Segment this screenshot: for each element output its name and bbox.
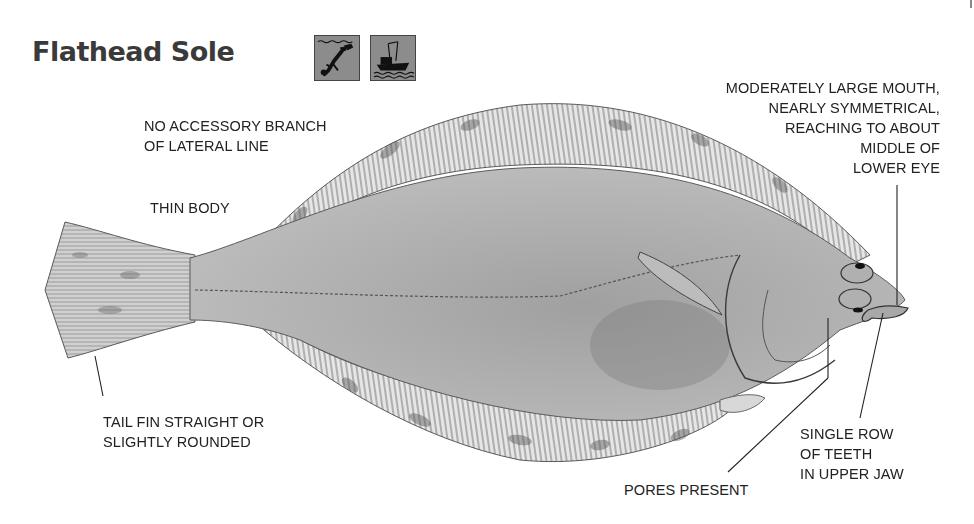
label-tail-fin: TAIL FIN STRAIGHT OR SLIGHTLY ROUNDED [103, 412, 264, 452]
label-thin-body: THIN BODY [150, 198, 230, 218]
label-teeth: SINGLE ROW OF TEETH IN UPPER JAW [800, 424, 904, 484]
lower-eye [839, 289, 871, 309]
page-edge-mark [970, 0, 972, 8]
tail-fin [45, 222, 195, 358]
leader-tail [95, 356, 103, 396]
label-lateral-line: NO ACCESSORY BRANCH OF LATERAL LINE [144, 116, 327, 156]
label-mouth: MODERATELY LARGE MOUTH, NEARLY SYMMETRIC… [726, 78, 940, 178]
label-pores: PORES PRESENT [624, 480, 749, 500]
leader-teeth [860, 313, 883, 418]
